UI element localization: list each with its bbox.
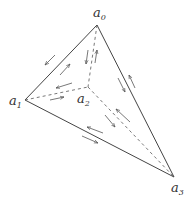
vertex-label-a2: a2 [77, 91, 90, 108]
arrow-icon [56, 83, 72, 88]
edge-a0-a2 [88, 25, 97, 87]
arrow-icon [60, 64, 70, 75]
arrow-icon [82, 136, 98, 143]
vertex-label-a3: a3 [171, 180, 184, 197]
tetrahedron-diagram: a0 a1 a2 a3 [0, 0, 196, 199]
vertex-label-a1: a1 [9, 93, 22, 110]
arrow-icon [129, 75, 135, 88]
arrow-icon [116, 109, 130, 122]
arrow-icon [50, 97, 64, 100]
solid-edges [25, 25, 174, 177]
edge-a0-a3 [97, 25, 174, 177]
arrow-icon [45, 55, 55, 65]
arrow-icon [95, 50, 97, 63]
arrow-icon [118, 78, 125, 92]
dashed-edges [25, 25, 174, 177]
arrow-icon [87, 127, 103, 133]
arrow-icon [105, 115, 115, 127]
arrow-icon [86, 50, 88, 64]
orientation-arrows [45, 50, 135, 143]
vertex-label-a0: a0 [93, 5, 106, 22]
edge-a1-a3 [25, 100, 174, 177]
